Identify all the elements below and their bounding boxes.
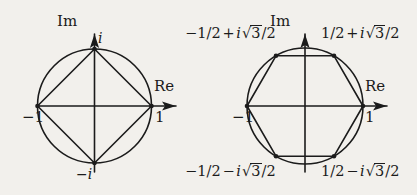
vertex-label-bottom-left-tail: /2 [262, 163, 276, 179]
vertex-label-bottom-left-radical: √3 [241, 163, 262, 179]
vertex-dot-neg-half-minus [274, 154, 279, 159]
vertex-dot-neg-half-plus [274, 54, 279, 59]
right-tick-label-neg-one: −1 [232, 110, 254, 125]
vertex-dot-one [149, 104, 154, 109]
vertex-label-bottom-right-radicand: 3 [374, 163, 385, 179]
left-tick-label-neg-i: −i [76, 167, 92, 181]
vertex-label-top-left-lead: −1/2 [185, 25, 221, 41]
vertex-label-bottom-left-radicand: 3 [250, 163, 261, 179]
vertex-dot-neg-i [92, 161, 97, 166]
vertex-label-bottom-left-op: − [221, 163, 236, 179]
vertex-label-bottom-right-op: − [345, 163, 360, 179]
vertex-label-bottom-left-lead: −1/2 [185, 163, 221, 179]
vertex-dot-half-minus [332, 154, 337, 159]
vertex-label-top-right-tail: /2 [385, 25, 399, 41]
right-tick-label-one: 1 [365, 110, 375, 125]
vertex-label-top-left-op: + [221, 25, 236, 41]
vertex-dot-i [92, 47, 97, 52]
vertex-label-bottom-right-lead: 1/2 [321, 163, 345, 179]
left-axis-label-re: Re [154, 79, 174, 94]
panel-sixth-roots: Im Re 1 −1 −1/2+i√3/2 1/2+i√3/2 −1/2−i√3… [209, 0, 417, 195]
left-axis-label-im: Im [57, 14, 77, 29]
vertex-label-top-right-radical: √3 [365, 25, 386, 41]
vertex-label-top-left-tail: /2 [262, 25, 276, 41]
vertex-label-bottom-right-tail: /2 [385, 163, 399, 179]
vertex-label-bottom-right-radical: √3 [365, 163, 386, 179]
left-tick-label-i: i [98, 31, 102, 45]
panel-fourth-roots: Im Re 1 −1 i −i [0, 0, 209, 195]
vertex-label-top-right-op: + [345, 25, 360, 41]
vertex-label-top-left-radicand: 3 [250, 25, 261, 41]
vertex-label-top-left: −1/2+i√3/2 [185, 25, 276, 41]
roots-of-unity-figure: Im Re 1 −1 i −i [0, 0, 417, 195]
fourth-roots-drawing [0, 0, 209, 195]
vertex-label-top-left-radical: √3 [241, 25, 262, 41]
vertex-label-bottom-left: −1/2−i√3/2 [185, 163, 276, 179]
vertex-label-top-right-lead: 1/2 [321, 25, 345, 41]
vertex-label-top-right-radicand: 3 [374, 25, 385, 41]
vertex-dot-half-plus [332, 54, 337, 59]
vertex-label-top-right: 1/2+i√3/2 [321, 25, 400, 41]
left-tick-label-neg-one: −1 [22, 110, 44, 125]
right-axis-label-re: Re [365, 79, 385, 94]
left-tick-label-one: 1 [155, 110, 165, 125]
vertex-label-bottom-right: 1/2−i√3/2 [321, 163, 400, 179]
